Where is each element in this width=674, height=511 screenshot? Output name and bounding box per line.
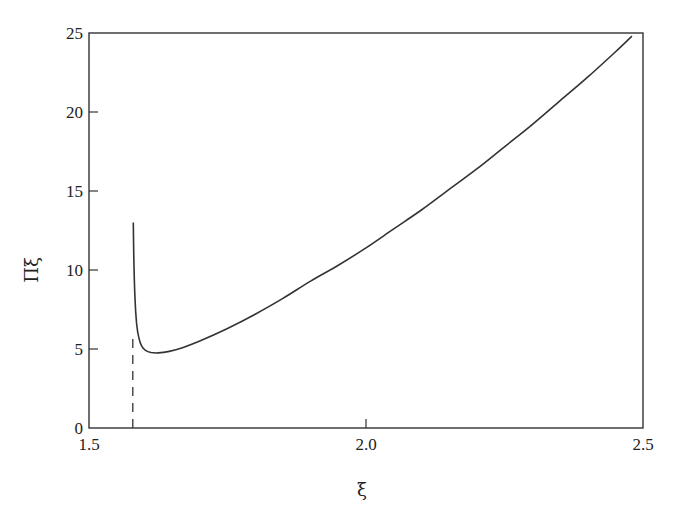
series-layer bbox=[133, 36, 632, 428]
plot-border bbox=[89, 33, 643, 428]
chart: 0510152025 1.52.02.5 ξ Πξ bbox=[0, 0, 674, 511]
y-tick-label: 15 bbox=[66, 182, 83, 201]
data-curve bbox=[133, 36, 632, 353]
y-tick-label: 10 bbox=[66, 261, 83, 280]
y-tick-label: 5 bbox=[75, 340, 84, 359]
y-axis-label: Πξ bbox=[21, 257, 42, 283]
y-tick-label: 20 bbox=[66, 103, 83, 122]
y-tick-label: 25 bbox=[66, 24, 83, 43]
x-tick-label: 2.0 bbox=[355, 435, 376, 454]
x-tick-label: 2.5 bbox=[632, 435, 653, 454]
x-axis-ticks: 1.52.02.5 bbox=[78, 419, 653, 454]
plot-frame bbox=[89, 33, 643, 428]
y-axis-ticks: 0510152025 bbox=[66, 24, 98, 438]
x-tick-label: 1.5 bbox=[78, 435, 99, 454]
x-axis-label: ξ bbox=[357, 479, 367, 500]
